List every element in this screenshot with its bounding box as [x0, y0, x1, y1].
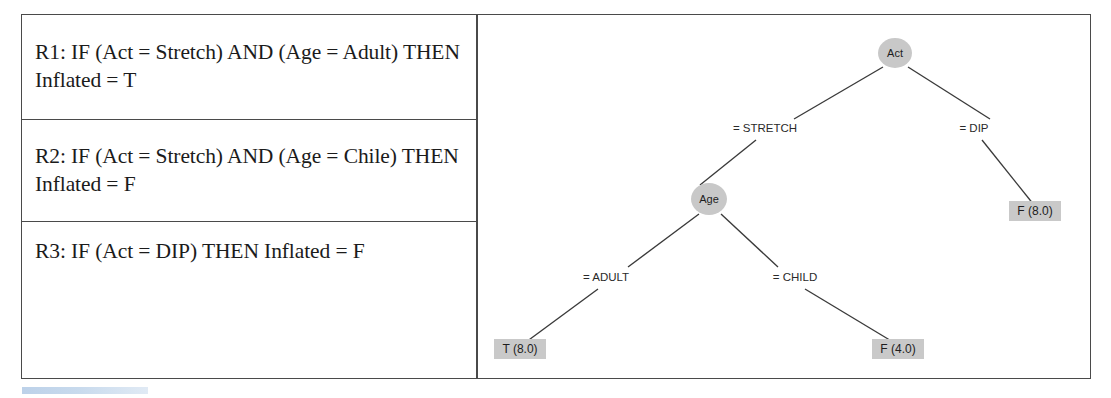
- edge-label-dip: = DIP: [959, 122, 988, 134]
- edge-root-to-stretch: [794, 67, 883, 119]
- tree-leaf-f40-label: F (4.0): [880, 342, 915, 356]
- edge-child-to-leaf-f40: [805, 289, 898, 345]
- tree-node-act-label: Act: [887, 47, 903, 59]
- rule-text-r3: R3: IF (Act = DIP) THEN Inflated = F: [35, 238, 365, 266]
- edge-label-child: = CHILD: [773, 271, 817, 283]
- tree-leaf-t80-label: T (8.0): [502, 342, 537, 356]
- edge-root-to-dip: [908, 67, 990, 119]
- edge-label-stretch: = STRETCH: [733, 122, 797, 134]
- figure-root: R1: IF (Act = Stretch) AND (Age = Adult)…: [21, 14, 1091, 379]
- tree-leaf-f80-label: F (8.0): [1017, 204, 1052, 218]
- rule-text-r1: R1: IF (Act = Stretch) AND (Age = Adult)…: [35, 39, 465, 94]
- selection-highlight: [22, 387, 148, 394]
- edge-dip-to-leaf-f80: [982, 140, 1034, 205]
- tree-node-age-label: Age: [699, 193, 719, 205]
- edge-stretch-to-age: [700, 140, 756, 185]
- rules-table: R1: IF (Act = Stretch) AND (Age = Adult)…: [21, 14, 477, 379]
- table-row: R3: IF (Act = DIP) THEN Inflated = F: [22, 222, 476, 378]
- table-row: R2: IF (Act = Stretch) AND (Age = Chile)…: [22, 120, 476, 222]
- decision-tree-panel: Act Age = STRETCH = DIP = ADULT = CHILD …: [477, 14, 1091, 379]
- table-row: R1: IF (Act = Stretch) AND (Age = Adult)…: [22, 15, 476, 120]
- edge-adult-to-leaf-t80: [522, 289, 598, 345]
- edge-age-to-child: [721, 214, 778, 267]
- edge-label-adult: = ADULT: [583, 271, 629, 283]
- decision-tree-svg: Act Age = STRETCH = DIP = ADULT = CHILD …: [478, 15, 1090, 378]
- rule-text-r2: R2: IF (Act = Stretch) AND (Age = Chile)…: [35, 143, 465, 198]
- edge-age-to-adult: [628, 214, 699, 267]
